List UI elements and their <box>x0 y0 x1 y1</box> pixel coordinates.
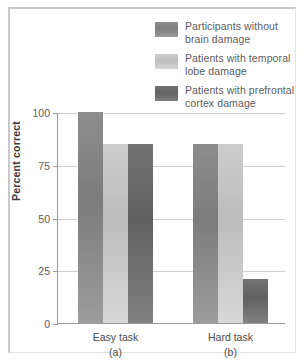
legend-label-1: Patients with temporal lobe damage <box>185 52 291 77</box>
y-tick-label-0: 0 <box>10 318 50 330</box>
legend-label-2-line1: Patients with prefrontal <box>185 84 294 96</box>
x-axis-group-sublabel-1: (b) <box>186 345 276 360</box>
legend-label-1-line2: lobe damage <box>185 65 247 77</box>
x-axis-group-sublabel-0: (a) <box>71 345 161 360</box>
y-tick-label-75: 75 <box>10 160 50 172</box>
legend-label-1-line1: Patients with temporal <box>185 52 291 64</box>
x-axis-group-name-0: Easy task <box>93 331 139 343</box>
y-tick-75 <box>53 166 58 167</box>
legend-swatch-icon-1 <box>155 54 178 69</box>
y-tick-100 <box>53 113 58 114</box>
y-tick-0 <box>53 324 58 325</box>
bar-0-2 <box>128 144 153 323</box>
legend-label-2: Patients with prefrontal cortex damage <box>185 84 294 109</box>
bar-chart-figure: Participants without brain damage Patien… <box>0 0 303 361</box>
plot-area: Easy task(a)Hard task(b) <box>57 113 285 324</box>
legend-label-0: Participants without brain damage <box>185 20 278 45</box>
y-tick-50 <box>53 219 58 220</box>
legend-swatch-icon-2 <box>155 86 178 101</box>
bar-0-0 <box>78 112 103 323</box>
bar-1-2 <box>243 279 268 323</box>
legend-label-0-line2: brain damage <box>185 33 250 45</box>
y-tick-label-25: 25 <box>10 265 50 277</box>
legend-label-0-line1: Participants without <box>185 20 278 32</box>
x-axis-group-label-0: Easy task(a) <box>71 330 161 360</box>
y-tick-label-50: 50 <box>10 213 50 225</box>
legend-item-0: Participants without brain damage <box>155 20 297 45</box>
legend-item-1: Patients with temporal lobe damage <box>155 52 297 77</box>
x-axis-group-label-1: Hard task(b) <box>186 330 276 360</box>
y-axis-tick-labels: 0255075100 <box>8 113 50 324</box>
bar-1-1 <box>218 144 243 323</box>
y-tick-25 <box>53 271 58 272</box>
y-tick-label-100: 100 <box>10 107 50 119</box>
legend-item-2: Patients with prefrontal cortex damage <box>155 84 297 109</box>
legend-label-2-line2: cortex damage <box>185 97 256 109</box>
chart-legend: Participants without brain damage Patien… <box>155 20 297 116</box>
bar-1-0 <box>193 144 218 323</box>
bar-0-1 <box>103 144 128 323</box>
legend-swatch-icon-0 <box>155 22 178 37</box>
x-axis-group-name-1: Hard task <box>208 331 253 343</box>
